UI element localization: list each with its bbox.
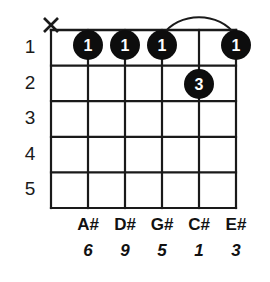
interval-string3: 5 [157, 241, 167, 260]
note-name-string4: D# [114, 215, 136, 234]
interval-string5: 6 [83, 241, 93, 260]
note-name-string2: C# [188, 215, 210, 234]
finger-dot-string2-fret2: 3 [184, 69, 214, 99]
fret-number-1: 1 [25, 36, 36, 57]
fret-number-4: 4 [25, 143, 36, 164]
fret-number-5: 5 [25, 178, 36, 199]
fret-number-2: 2 [25, 72, 36, 93]
finger-dot-string5-fret1: 1 [73, 30, 103, 60]
finger-dot-label: 1 [84, 37, 93, 54]
chord-diagram-canvas: 1 2 3 4 5 1 1 1 1 3 A# D# G# C# [0, 0, 270, 282]
chord-diagram: 1 2 3 4 5 1 1 1 1 3 A# D# G# C# [0, 0, 270, 282]
interval-string4: 9 [120, 241, 130, 260]
interval-string2: 1 [194, 241, 203, 260]
finger-dot-string3-fret1: 1 [147, 30, 177, 60]
finger-dot-label: 3 [195, 76, 204, 93]
note-name-string5: A# [77, 215, 99, 234]
note-name-string3: G# [151, 215, 174, 234]
fret-number-3: 3 [25, 107, 36, 128]
interval-string1: 3 [231, 241, 241, 260]
finger-dot-label: 1 [232, 37, 241, 54]
finger-dot-string1-fret1: 1 [221, 30, 251, 60]
note-name-string1: E# [226, 215, 247, 234]
finger-dot-label: 1 [158, 37, 167, 54]
finger-dot-label: 1 [121, 37, 130, 54]
finger-dot-string4-fret1: 1 [110, 30, 140, 60]
